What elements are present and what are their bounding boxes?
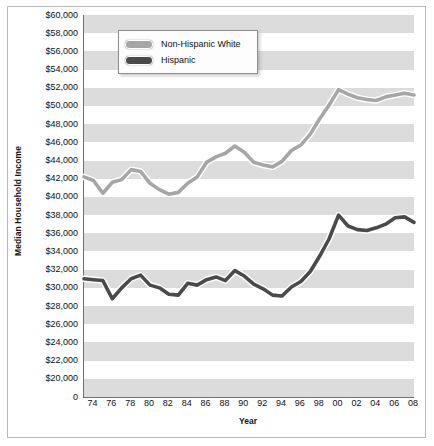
y-axis-tick-label: $42,000	[26, 174, 78, 183]
series-line-non-hispanic-white	[84, 90, 414, 195]
series-line-halo	[84, 215, 414, 299]
y-axis-tick-label: $54,000	[26, 65, 78, 74]
y-axis-tick-label: $44,000	[26, 156, 78, 165]
y-axis-title: Median Household Income	[13, 121, 23, 281]
y-axis-tick-label: $48,000	[26, 120, 78, 129]
x-axis-title: Year	[83, 416, 413, 426]
y-axis-tick-label: $60,000	[26, 11, 78, 20]
y-axis-tick-labels: $60,000$58,000$56,000$54,000$52,000$50,0…	[22, 0, 78, 446]
x-axis-tick-labels: 747678808284868890929496980002040608	[83, 398, 413, 412]
y-axis-tick-label: 0	[26, 393, 78, 402]
chart-legend: Non-Hispanic White Hispanic	[118, 30, 258, 74]
y-axis-tick-label: $24,000	[26, 338, 78, 347]
y-axis-tick-label: $38,000	[26, 211, 78, 220]
y-axis-tick-label: $30,000	[26, 283, 78, 292]
series-line-halo	[84, 90, 414, 195]
y-axis-tick-label: $36,000	[26, 229, 78, 238]
y-axis-tick-label: $22,000	[26, 356, 78, 365]
x-axis-tick-label: 08	[402, 398, 424, 408]
legend-item-label: Hispanic	[161, 55, 196, 65]
legend-swatch-icon	[125, 40, 153, 49]
y-axis-tick-label: $56,000	[26, 47, 78, 56]
legend-item-label: Non-Hispanic White	[161, 39, 241, 49]
y-axis-tick-label: $58,000	[26, 29, 78, 38]
chart-figure: $60,000$58,000$56,000$54,000$52,000$50,0…	[0, 0, 434, 446]
y-axis-tick-label: $40,000	[26, 192, 78, 201]
legend-swatch-icon	[125, 56, 153, 65]
y-axis-tick-label: $52,000	[26, 83, 78, 92]
legend-item-non-hispanic-white: Non-Hispanic White	[125, 36, 251, 52]
y-axis-tick-label: $50,000	[26, 101, 78, 110]
y-axis-tick-label: $46,000	[26, 138, 78, 147]
legend-item-hispanic: Hispanic	[125, 52, 251, 68]
y-axis-tick-label: $26,000	[26, 320, 78, 329]
y-axis-tick-label: $28,000	[26, 302, 78, 311]
y-axis-tick-label: $20,000	[26, 374, 78, 383]
y-axis-tick-label: $32,000	[26, 265, 78, 274]
y-axis-tick-label: $34,000	[26, 247, 78, 256]
